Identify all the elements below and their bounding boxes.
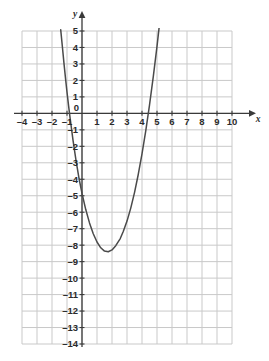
x-axis-tick-label: 3 [124,116,129,127]
grid-lines [22,31,232,344]
x-axis-tick-label: 1 [94,116,100,127]
y-axis-tick-label: –6 [67,207,78,218]
y-axis-tick-label: –13 [62,322,78,333]
x-axis-tick-label: 9 [214,116,219,127]
y-axis-tick-label: –7 [67,223,78,234]
y-axis-tick-label: –8 [67,240,78,251]
y-axis-tick-label: –11 [63,289,79,300]
y-axis-tick-label: –5 [67,190,78,201]
graph-canvas: –4–3–2–11234567891054321–1–2–3–4–5–6–7–8… [0,0,269,361]
y-axis-tick-label: 3 [73,58,78,69]
x-axis-tick-label: 5 [154,116,160,127]
x-axis-tick-label: 2 [109,116,114,127]
x-axis-label: x [255,114,261,124]
y-axis-tick-label: –1 [67,124,78,135]
x-axis-tick-label: 4 [139,116,145,127]
y-axis-tick-label: –12 [62,305,78,316]
y-axis-tick-label: 5 [73,25,79,36]
y-axis-tick-label: –2 [67,141,78,152]
y-axis-tick-label: –9 [67,256,78,267]
y-axis-tick-label: –14 [62,338,79,349]
x-axis-tick-label: –4 [17,116,28,127]
y-axis-tick-label: 2 [73,75,78,86]
x-axis-tick-label: 6 [169,116,174,127]
y-axis-tick-label: 4 [73,42,79,53]
y-axis-arrow-icon [79,11,86,18]
origin-label: 0 [74,102,79,113]
x-axis-tick-label: –3 [32,116,43,127]
coordinate-graph: –4–3–2–11234567891054321–1–2–3–4–5–6–7–8… [0,0,269,361]
y-axis-tick-label: –4 [67,174,78,185]
x-axis-tick-label: 10 [227,116,238,127]
x-axis-tick-label: 8 [199,116,204,127]
y-axis-tick-label: 1 [73,91,79,102]
x-axis-tick-label: 7 [184,116,189,127]
y-axis-tick-label: –10 [62,273,78,284]
y-axis-tick-label: –3 [67,157,78,168]
y-axis-label: y [72,9,78,19]
x-axis-tick-label: –2 [47,116,58,127]
